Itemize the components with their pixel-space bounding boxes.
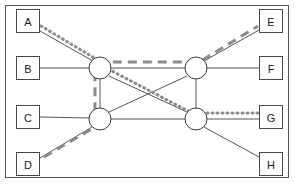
endpoint-label-b: B bbox=[24, 63, 31, 75]
endpoint-node-g[interactable]: G bbox=[260, 106, 283, 129]
endpoint-node-e[interactable]: E bbox=[260, 10, 283, 33]
endpoint-node-a[interactable]: A bbox=[17, 10, 40, 33]
endpoint-node-b[interactable]: B bbox=[17, 57, 40, 80]
network-svg: ABCDEFGH bbox=[0, 0, 295, 187]
endpoint-node-d[interactable]: D bbox=[17, 153, 40, 176]
endpoint-node-c[interactable]: C bbox=[17, 106, 40, 129]
endpoint-label-g: G bbox=[267, 112, 276, 124]
hub-node-n2[interactable] bbox=[185, 57, 207, 79]
endpoint-label-c: C bbox=[24, 112, 32, 124]
endpoint-node-h[interactable]: H bbox=[260, 153, 283, 176]
hub-node-n4[interactable] bbox=[185, 108, 207, 130]
endpoint-label-f: F bbox=[268, 63, 275, 75]
diagram-frame bbox=[6, 6, 289, 178]
endpoint-label-h: H bbox=[267, 159, 275, 171]
network-diagram: ABCDEFGH bbox=[0, 0, 295, 187]
hub-node-n1[interactable] bbox=[89, 57, 111, 79]
endpoint-label-d: D bbox=[24, 159, 32, 171]
endpoint-label-a: A bbox=[24, 16, 32, 28]
endpoint-label-e: E bbox=[267, 16, 274, 28]
hub-node-n3[interactable] bbox=[89, 108, 111, 130]
endpoint-node-f[interactable]: F bbox=[260, 57, 283, 80]
